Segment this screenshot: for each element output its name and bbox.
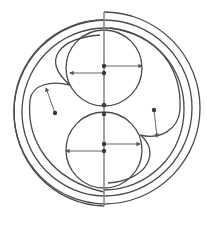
center-dot xyxy=(102,142,106,146)
radius-arrow xyxy=(46,88,55,113)
center-dot xyxy=(102,103,106,107)
spiral-diagram xyxy=(0,0,207,225)
radius-arrow xyxy=(154,110,157,137)
center-dot xyxy=(53,111,57,115)
center-dot xyxy=(102,64,106,68)
right-cam-curve xyxy=(108,28,180,183)
outer-spiral-arc xyxy=(14,12,200,204)
center-dot xyxy=(152,108,156,112)
center-dot xyxy=(102,149,106,153)
center-dot xyxy=(102,71,106,75)
center-dot xyxy=(102,112,106,116)
